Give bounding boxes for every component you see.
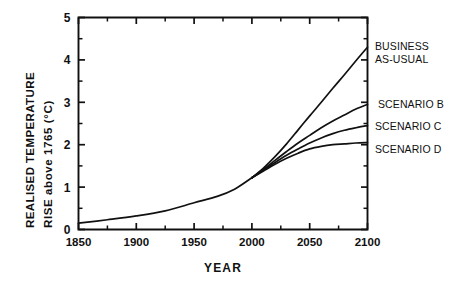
series-label-scenario-c: SCENARIO C [375,120,441,132]
series-line-scenario-d [252,143,368,178]
x-tick-label: 1950 [181,236,207,248]
series-line-historical [79,178,252,223]
series-label-scenario-d: SCENARIO D [375,143,441,155]
y-tick-label: 3 [64,96,71,110]
y-tick-label: 2 [64,138,71,152]
temperature-projection-chart: 185019001950200020502100 012345 YEAR REA… [0,0,471,287]
series-line-scenario-c [252,126,368,178]
x-tick-label: 2050 [297,236,323,248]
x-axis-tick-labels: 185019001950200020502100 [66,236,381,248]
series-label-business-as-usual-line2: AS-USUAL [375,53,428,65]
x-tick-label: 1900 [124,236,150,248]
y-axis-title-line1: REALISED TEMPERATURE [24,72,36,228]
y-axis-tick-labels: 012345 [64,11,71,237]
y-tick-label: 1 [64,181,71,195]
series-label-scenario-b: SCENARIO B [378,98,444,110]
y-tick-label: 0 [64,223,71,237]
axis-frame [79,18,368,230]
y-tick-label: 4 [64,53,71,67]
series-label-business-as-usual-line1: BUSINESS [375,40,429,52]
x-tick-label: 2100 [355,236,381,248]
data-series [79,47,368,223]
y-tick-label: 5 [64,11,71,25]
x-axis-ticks [79,18,368,230]
y-axis-title-line2: RISE above 1765 (°C) [42,100,54,228]
x-tick-label: 2000 [239,236,265,248]
x-axis-title: YEAR [204,261,242,275]
axes [79,18,368,230]
y-axis-ticks [79,18,368,230]
x-tick-label: 1850 [66,236,92,248]
